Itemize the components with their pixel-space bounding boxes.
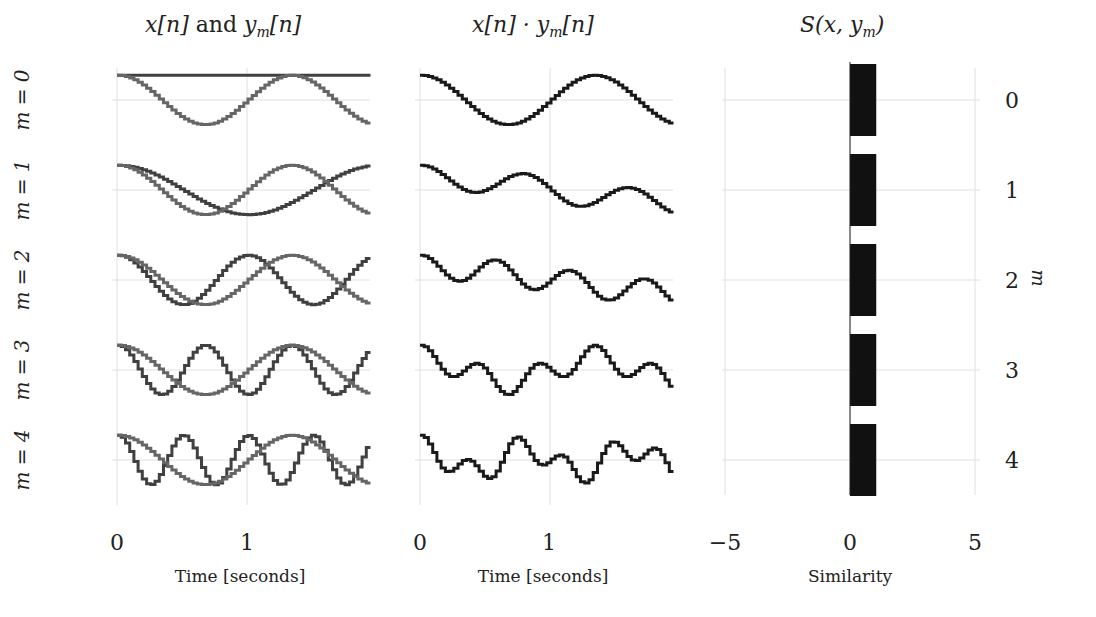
middle-xlabel: Time [seconds] — [478, 566, 609, 586]
similarity-bar-m1 — [850, 154, 876, 226]
m-tick-1: 1 — [1005, 178, 1019, 203]
right-xtick-5: 5 — [968, 530, 982, 555]
similarity-bar-m3 — [850, 334, 876, 406]
left-xtick-1: 1 — [240, 530, 254, 555]
left-xlabel: Time [seconds] — [175, 566, 306, 586]
similarity-bar-m2 — [850, 244, 876, 316]
product-signal-m1 — [420, 165, 674, 212]
chart-canvas — [0, 0, 1096, 617]
m-axis-label: m — [1028, 269, 1049, 286]
right-xtick-neg5: −5 — [709, 530, 741, 555]
product-signal-m4 — [420, 435, 674, 483]
m-tick-3: 3 — [1005, 358, 1019, 383]
middle-xtick-0: 0 — [413, 530, 427, 555]
product-signal-m2 — [420, 255, 674, 300]
right-xlabel: Similarity — [808, 566, 892, 586]
similarity-bar-m4 — [850, 424, 876, 496]
m-tick-2: 2 — [1005, 268, 1019, 293]
middle-xtick-1: 1 — [542, 530, 556, 555]
m-tick-4: 4 — [1005, 448, 1019, 473]
m-tick-0: 0 — [1005, 88, 1019, 113]
similarity-bar-m0 — [850, 64, 876, 136]
left-xtick-0: 0 — [110, 530, 124, 555]
right-xtick-0: 0 — [843, 530, 857, 555]
